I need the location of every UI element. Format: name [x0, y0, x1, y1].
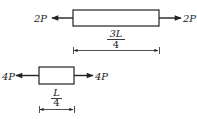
bar-1-length-numerator: 3L [109, 28, 122, 39]
bar-2-length-denominator: 4 [53, 97, 59, 108]
bar-2-left-force-label: 4P [1, 71, 15, 82]
bar-2-group: 4P 4P L 4 [1, 67, 108, 113]
bar-2-right-force-label: 4P [94, 71, 108, 82]
bar-1-group: 2P 2P 3L 4 [33, 10, 196, 54]
bar-2 [39, 67, 74, 84]
bar-1-left-force-label: 2P [33, 13, 47, 24]
bar-1 [73, 10, 159, 26]
bar-1-length-denominator: 4 [113, 39, 119, 50]
bar-1-right-force-label: 2P [182, 13, 196, 24]
diagram-canvas: 2P 2P 3L 4 4P 4P L 4 [0, 0, 197, 119]
